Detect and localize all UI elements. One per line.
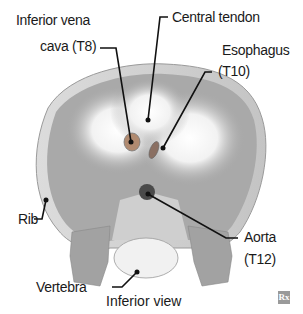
label-esophagus-line2: (T10) xyxy=(218,63,250,80)
left-crus xyxy=(70,226,110,286)
label-ivc-line1: Inferior vena xyxy=(16,12,90,29)
vertebra-body xyxy=(114,238,178,278)
label-vertebra: Vertebra xyxy=(36,279,87,296)
right-crus xyxy=(188,226,232,286)
label-rib: Rib xyxy=(18,211,38,228)
view-caption: Inferior view xyxy=(106,293,181,309)
label-aorta-line2: (T12) xyxy=(244,251,276,268)
label-aorta-line1: Aorta xyxy=(244,229,276,246)
label-central-tendon: Central tendon xyxy=(172,9,260,26)
label-esophagus-line1: Esophagus xyxy=(222,42,289,59)
rx-logo: Rx xyxy=(278,291,290,304)
label-ivc-line2: cava (T8) xyxy=(40,38,96,55)
